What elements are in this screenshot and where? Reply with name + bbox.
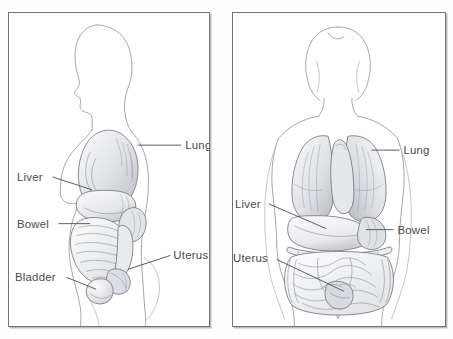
front-view-illustration: Lung Liver Bowel Uterus (233, 13, 445, 326)
label-text-liver: Liver (235, 198, 261, 210)
label-lung: Lung (138, 139, 209, 151)
front-view-panel: Lung Liver Bowel Uterus (232, 12, 446, 327)
leader-line-uterus (128, 255, 171, 269)
liver-organ-front (288, 216, 370, 251)
side-view-illustration: Lung Liver Bowel Bladder (9, 13, 209, 326)
label-text-lung: Lung (403, 144, 429, 156)
label-uterus: Uterus (128, 249, 209, 269)
label-text-bowel: Bowel (397, 224, 429, 236)
bladder-organ-side (86, 279, 113, 304)
lungs-organ-front (292, 136, 386, 222)
diagram-stage: Lung Liver Bowel Bladder (0, 0, 453, 339)
label-text-liver: Liver (17, 171, 43, 183)
label-text-lung: Lung (185, 139, 209, 151)
stomach-organ-front (357, 217, 385, 249)
side-view-panel: Lung Liver Bowel Bladder (8, 12, 210, 327)
label-text-uterus: Uterus (233, 252, 268, 264)
label-text-bowel: Bowel (17, 218, 49, 230)
label-text-bladder: Bladder (15, 271, 56, 283)
label-text-uterus: Uterus (173, 249, 208, 261)
